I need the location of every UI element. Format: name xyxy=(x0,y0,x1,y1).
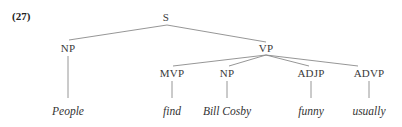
node-advp: ADVP xyxy=(354,67,385,79)
leaf-bill-cosby: Bill Cosby xyxy=(203,105,251,117)
edge-s-np xyxy=(69,25,167,40)
node-vp: VP xyxy=(259,42,273,54)
leaf-usually: usually xyxy=(352,105,385,117)
node-np-subject: NP xyxy=(61,42,75,54)
edge-vp-advp xyxy=(266,55,358,66)
edge-vp-np xyxy=(229,55,266,66)
node-s: S xyxy=(163,11,169,23)
edge-vp-mvp xyxy=(173,55,266,66)
node-adjp: ADJP xyxy=(297,67,324,79)
leaf-funny: funny xyxy=(298,105,324,117)
node-np-object: NP xyxy=(220,67,234,79)
leaf-people: People xyxy=(52,105,84,117)
edge-s-vp xyxy=(167,25,266,42)
edge-vp-adjp xyxy=(266,55,309,66)
node-mvp: MVP xyxy=(160,67,184,79)
leaf-find: find xyxy=(163,105,181,117)
